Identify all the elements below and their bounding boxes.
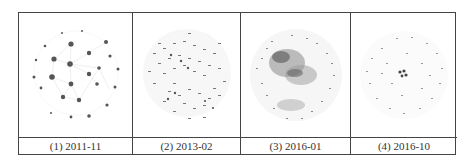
panel-3-caption: (3) 2016-01 [240,137,350,155]
panel-1-network [19,13,132,137]
network-graph-1-icon [19,13,132,137]
panel-3-network [240,13,350,137]
panel-4-caption: (4) 2016-10 [350,137,457,155]
network-graph-2-icon [133,13,240,137]
panel-2-network [132,13,240,137]
figure-table: (1) 2011-11 (2) 2013-02 (3) 2016-01 (4) … [18,12,456,155]
network-graph-4-icon [351,13,457,137]
panel-2-caption: (2) 2013-02 [132,137,240,155]
panel-1-caption: (1) 2011-11 [19,137,132,155]
network-graph-3-icon [241,13,350,137]
panel-4-network [350,13,457,137]
